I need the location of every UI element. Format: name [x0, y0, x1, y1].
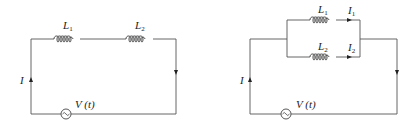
- branch-current-i2-label: I2: [347, 41, 356, 55]
- circuit-diagrams: L1 L2 I V (t) L1 L2 I1 I2 I: [0, 0, 415, 129]
- current-label: I: [239, 74, 245, 86]
- inductor-l2-label: L2: [317, 40, 328, 54]
- ac-source-icon: [61, 109, 71, 119]
- inductor-l1-icon: [310, 17, 329, 23]
- inductor-l1-icon: [54, 36, 73, 42]
- current-up-arrow-icon: [29, 77, 33, 82]
- current-down-arrow-icon: [395, 70, 399, 75]
- inductor-l2-icon: [126, 36, 145, 42]
- current-down-arrow-icon: [174, 70, 178, 75]
- series-wire: [31, 39, 176, 114]
- source-label: V (t): [75, 98, 95, 111]
- parallel-circuit: L1 L2 I1 I2 I V (t): [239, 3, 399, 119]
- current-label: I: [19, 74, 25, 86]
- inductor-l1-label: L1: [62, 19, 73, 33]
- branch-current-i2-arrow-icon: [347, 55, 352, 59]
- current-up-arrow-icon: [248, 77, 252, 82]
- inductor-l2-label: L2: [134, 19, 145, 33]
- series-circuit: L1 L2 I V (t): [19, 19, 178, 119]
- inductor-l1-label: L1: [317, 3, 328, 17]
- branch-current-i1-label: I1: [347, 4, 356, 18]
- source-label: V (t): [296, 98, 316, 111]
- inductor-l2-icon: [310, 54, 329, 60]
- branch-current-i1-arrow-icon: [347, 18, 352, 22]
- ac-source-icon: [281, 109, 291, 119]
